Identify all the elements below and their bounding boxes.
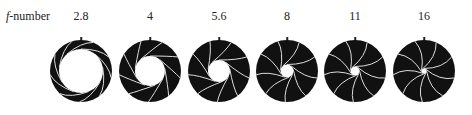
f-number-text: -number — [9, 9, 50, 23]
aperture-diaphragm-icon — [391, 38, 457, 104]
f-number-value: 16 — [418, 9, 430, 24]
aperture-diaphragm-icon — [117, 38, 183, 104]
aperture-diaphragm-icon — [254, 38, 320, 104]
f-number-value: 11 — [349, 9, 361, 24]
f-number-value: 4 — [147, 9, 153, 24]
aperture-diaphragm-icon — [322, 38, 388, 104]
aperture-diaphragm-icon — [186, 38, 252, 104]
aperture-diaphragm-icon — [48, 38, 114, 104]
f-number-value: 5.6 — [212, 9, 227, 24]
f-number-value: 2.8 — [74, 9, 89, 24]
f-number-value: 8 — [284, 9, 290, 24]
f-number-label: f-number — [6, 9, 50, 24]
